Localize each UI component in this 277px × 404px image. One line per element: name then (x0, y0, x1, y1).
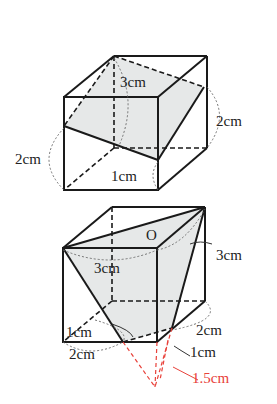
cube-figure-1: 3cm 2cm 2cm 1cm (15, 56, 242, 190)
label-1cm-bottom: 1cm (111, 168, 137, 184)
label-1cm-left: 1cm (66, 324, 92, 340)
label-2cm-right: 2cm (196, 322, 222, 338)
diagram-canvas: 3cm 2cm 2cm 1cm (0, 0, 277, 404)
label-3cm-top: 3cm (120, 74, 146, 90)
label-2cm-bottom: 2cm (69, 346, 95, 362)
label-3cm-right: 3cm (216, 247, 242, 263)
label-3cm-inner: 3cm (94, 260, 120, 276)
label-1-5cm: 1.5cm (192, 370, 229, 386)
section-plane-1 (64, 56, 204, 160)
label-1cm-right: 1cm (190, 344, 216, 360)
label-2cm-right: 2cm (216, 113, 242, 129)
label-O-apex: O (146, 227, 157, 243)
label-2cm-left: 2cm (15, 151, 41, 167)
cube-figure-2: O 3cm 3cm 2cm 1cm 1.5cm 1cm 2cm (63, 207, 242, 387)
